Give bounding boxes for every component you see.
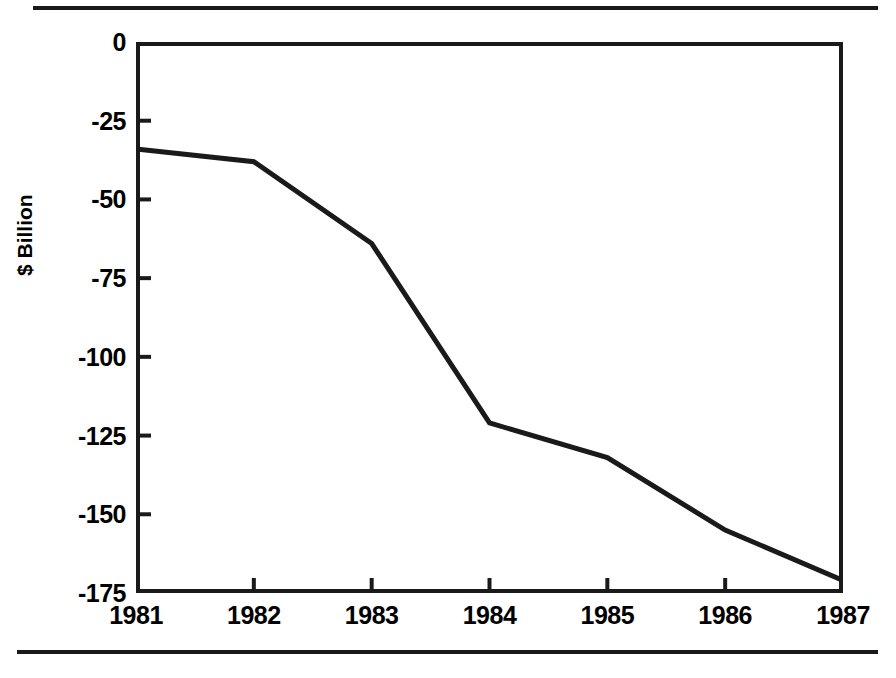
y-axis-tick-label: -100 [78, 345, 126, 370]
y-axis-tick-label: -25 [91, 109, 126, 134]
chart-figure: $ Billion 0-25-50-75-100-125-150-175 198… [0, 0, 896, 678]
y-axis-tick-label: -150 [78, 502, 126, 527]
x-axis-tick-label: 1987 [816, 603, 870, 628]
x-axis-tick-labels: 1981198219831984198519861987 [0, 603, 896, 643]
plot-area [136, 42, 843, 593]
x-axis-tick-label: 1982 [227, 603, 281, 628]
x-axis-tick-label: 1983 [345, 603, 399, 628]
x-axis-tick-label: 1986 [698, 603, 752, 628]
x-axis-tick-label: 1985 [581, 603, 635, 628]
y-axis-tick-label: -75 [91, 266, 126, 291]
y-axis-tick-label: -50 [91, 187, 126, 212]
y-axis-tick-label: -125 [78, 424, 126, 449]
bottom-divider-rule [17, 650, 878, 654]
x-axis-tick-label: 1984 [463, 603, 517, 628]
line-chart-svg [136, 42, 843, 593]
x-axis-tick-label: 1981 [109, 603, 163, 628]
y-axis-tick-labels: 0-25-50-75-100-125-150-175 [0, 0, 126, 678]
top-divider-rule [33, 6, 878, 10]
axis-spines [138, 44, 841, 591]
data-series-line [136, 149, 843, 580]
y-axis-tick-label: 0 [113, 30, 126, 55]
